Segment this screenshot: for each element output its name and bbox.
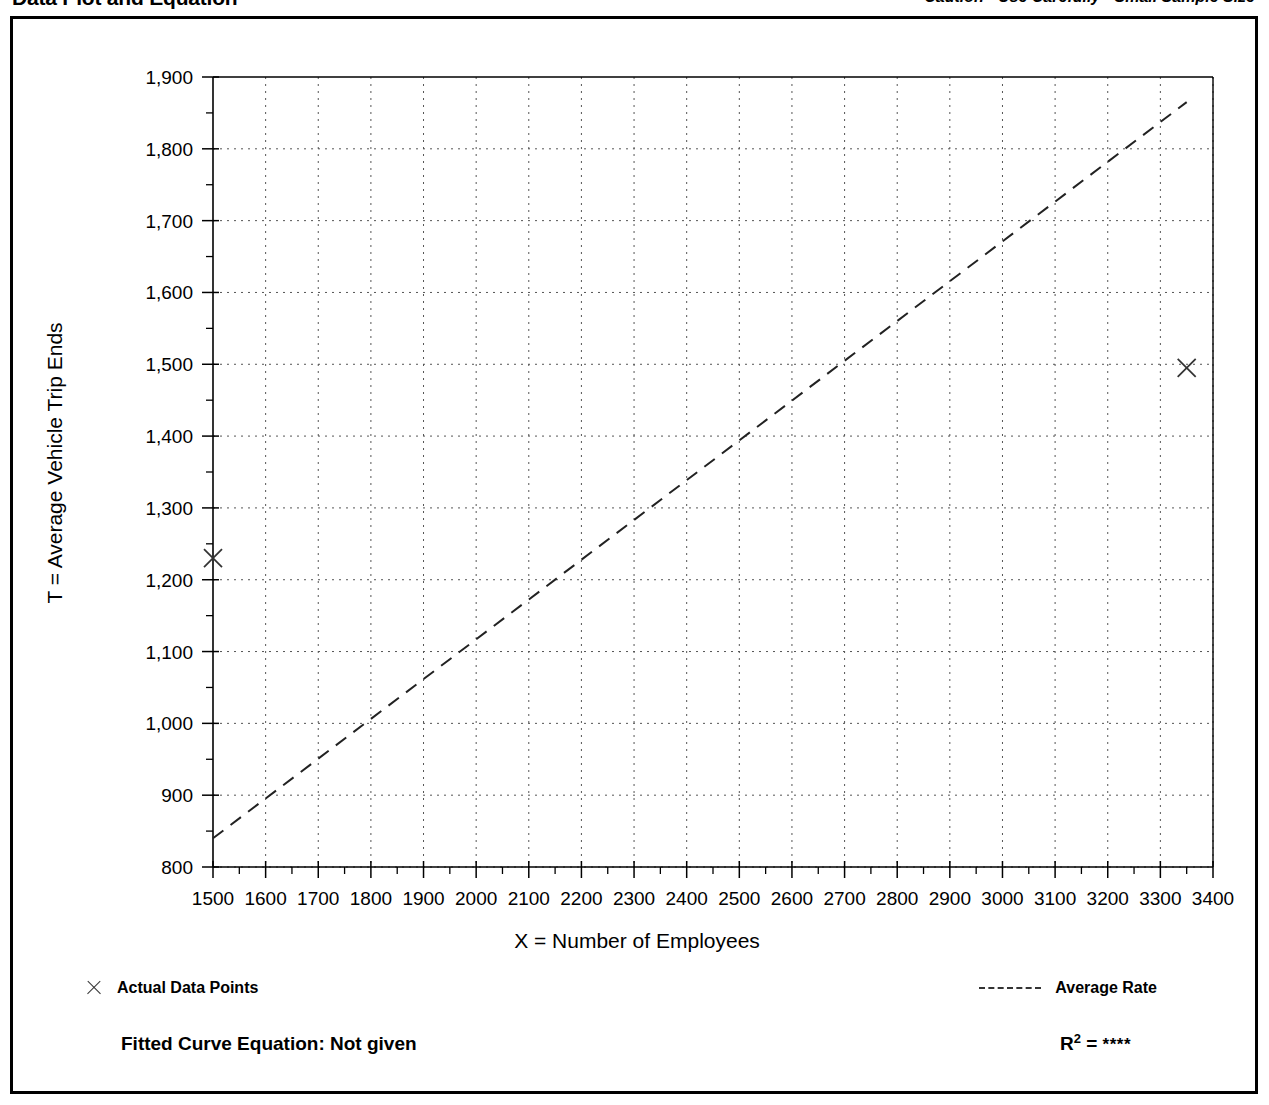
svg-text:1,400: 1,400 (145, 426, 193, 447)
svg-text:2700: 2700 (823, 888, 865, 909)
svg-text:3400: 3400 (1192, 888, 1234, 909)
svg-text:1,500: 1,500 (145, 354, 193, 375)
svg-text:1,100: 1,100 (145, 642, 193, 663)
dashed-line-icon (979, 987, 1041, 989)
x-axis-title: X = Number of Employees (13, 929, 1261, 953)
svg-text:3200: 3200 (1087, 888, 1129, 909)
svg-text:800: 800 (161, 857, 193, 878)
chart-frame: T = Average Vehicle Trip Ends X = Number… (10, 16, 1258, 1094)
r-label: R (1060, 1033, 1074, 1054)
average-rate-line (213, 102, 1187, 838)
svg-text:1,200: 1,200 (145, 570, 193, 591)
svg-text:1,700: 1,700 (145, 211, 193, 232)
r-exponent: 2 (1074, 1031, 1081, 1046)
svg-text:2400: 2400 (666, 888, 708, 909)
svg-text:1,000: 1,000 (145, 713, 193, 734)
r-equals: = (1081, 1033, 1103, 1054)
svg-text:3000: 3000 (981, 888, 1023, 909)
r-squared-value: R2 = **** (1060, 1031, 1131, 1055)
x-marker-icon (85, 979, 103, 997)
page-title: Data Plot and Equation (12, 0, 237, 10)
scatter-plot: 8009001,0001,1001,2001,3001,4001,5001,60… (13, 19, 1261, 919)
equation-row: Fitted Curve Equation: Not given R2 = **… (13, 1031, 1261, 1071)
svg-text:1800: 1800 (350, 888, 392, 909)
legend-label-actual-data-points: Actual Data Points (117, 979, 258, 997)
svg-text:2500: 2500 (718, 888, 760, 909)
svg-text:3300: 3300 (1139, 888, 1181, 909)
svg-text:1700: 1700 (297, 888, 339, 909)
series-layer (204, 102, 1196, 838)
svg-text:900: 900 (161, 785, 193, 806)
svg-text:2300: 2300 (613, 888, 655, 909)
x-tick-labels: 1500160017001800190020002100220023002400… (192, 888, 1234, 909)
legend-item-actual-data-points: Actual Data Points (85, 979, 258, 997)
chart-legend: Actual Data Points Average Rate (13, 979, 1261, 1013)
svg-text:2200: 2200 (560, 888, 602, 909)
svg-text:1,600: 1,600 (145, 282, 193, 303)
svg-text:1,900: 1,900 (145, 67, 193, 88)
svg-text:1,300: 1,300 (145, 498, 193, 519)
y-tick-labels: 8009001,0001,1001,2001,3001,4001,5001,60… (145, 67, 193, 878)
legend-item-average-rate: Average Rate (979, 979, 1157, 997)
svg-text:1500: 1500 (192, 888, 234, 909)
legend-label-average-rate: Average Rate (1055, 979, 1157, 997)
svg-text:2800: 2800 (876, 888, 918, 909)
svg-text:1,800: 1,800 (145, 139, 193, 160)
chart-canvas: T = Average Vehicle Trip Ends X = Number… (13, 19, 1261, 1097)
svg-text:1600: 1600 (244, 888, 286, 909)
svg-text:2100: 2100 (508, 888, 550, 909)
svg-text:2000: 2000 (455, 888, 497, 909)
svg-text:3100: 3100 (1034, 888, 1076, 909)
data-point-marker (1178, 359, 1196, 377)
svg-text:2900: 2900 (929, 888, 971, 909)
r-value: **** (1103, 1035, 1131, 1054)
caution-note: Caution - Use Carefully - Small Sample S… (924, 0, 1255, 6)
fitted-curve-equation: Fitted Curve Equation: Not given (121, 1033, 417, 1055)
svg-text:1900: 1900 (402, 888, 444, 909)
svg-text:2600: 2600 (771, 888, 813, 909)
